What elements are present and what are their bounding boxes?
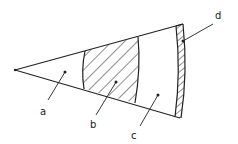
- apex-point: [14, 69, 16, 71]
- label-b: b: [90, 119, 96, 130]
- label-a: a: [40, 106, 46, 117]
- leader-a: [48, 72, 65, 100]
- leader-d: [183, 24, 213, 41]
- region-b-hatch: [83, 37, 139, 103]
- label-d: d: [215, 10, 221, 21]
- sector-diagram: a b c d: [0, 0, 238, 144]
- label-c: c: [131, 130, 137, 141]
